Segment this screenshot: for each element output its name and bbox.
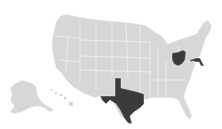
alaska xyxy=(10,80,54,114)
hawaii xyxy=(51,89,73,106)
us-map xyxy=(0,0,222,129)
us-map-svg xyxy=(0,0,222,129)
